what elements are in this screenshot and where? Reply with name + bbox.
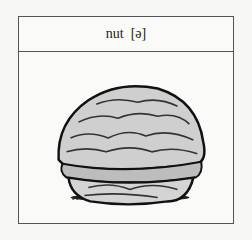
walnut-illustration <box>19 52 233 222</box>
phoneme-label: [ə] <box>131 26 147 42</box>
word-label: nut <box>106 26 124 42</box>
card-header: nut [ə] <box>19 17 233 52</box>
flashcard: nut [ə] <box>18 16 234 224</box>
